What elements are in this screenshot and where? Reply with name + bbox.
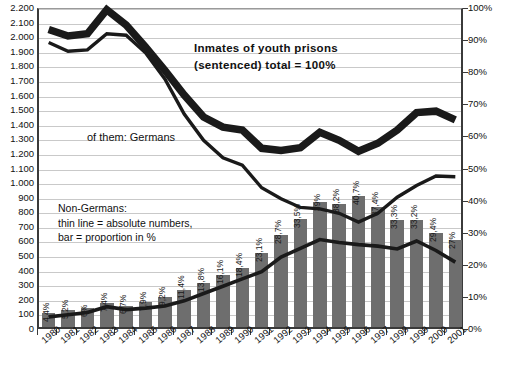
- left-axis-tick-label: 0: [1, 324, 34, 334]
- non-germans-legend-annotation: Non-Germans: thin line = absolute number…: [58, 201, 193, 245]
- bar-value-label: 39%: [312, 194, 322, 211]
- bar-value-label: 40,7%: [351, 181, 361, 205]
- right-axis-tick-label: 90%: [468, 35, 506, 45]
- left-axis-tick-label: 1.900: [1, 47, 34, 57]
- bar-value-label: 9,2%: [157, 287, 167, 306]
- left-axis-tick-label: 800: [1, 207, 34, 217]
- right-axis-tick-label: 40%: [468, 196, 506, 206]
- left-axis-tick-label: 900: [1, 193, 34, 203]
- left-axis-tick-label: 1.100: [1, 164, 34, 174]
- left-axis-tick-label: 100: [1, 309, 34, 319]
- bar-value-label: 33,2%: [409, 205, 419, 229]
- bar-value-label: 29,4%: [428, 218, 438, 242]
- bar-value-label: 5,2%: [60, 300, 70, 319]
- bar-value-label: 18,4%: [234, 253, 244, 277]
- germans-series-annotation: of them: Germans: [87, 130, 175, 144]
- bar-value-label: 6,7%: [118, 295, 128, 314]
- bar-value-label: 33,3%: [389, 205, 399, 229]
- right-axis-tick-label: 60%: [468, 131, 506, 141]
- right-axis-tick-label: 10%: [468, 292, 506, 302]
- bar-value-label: 28,7%: [273, 220, 283, 244]
- x-axis-tick: [37, 329, 38, 335]
- left-axis-tick-label: 1.600: [1, 91, 34, 101]
- right-axis-tick-label: 80%: [468, 67, 506, 77]
- right-axis-tick-label: 100%: [468, 3, 506, 13]
- right-axis-tick-label: 30%: [468, 228, 506, 238]
- left-axis-tick-label: 1.500: [1, 105, 34, 115]
- bar-value-label: 13,8%: [196, 268, 206, 292]
- line-medium-line: [49, 240, 456, 317]
- left-axis-tick-label: 300: [1, 280, 34, 290]
- left-axis-tick-label: 2.200: [1, 3, 34, 13]
- left-axis-tick-label: 700: [1, 222, 34, 232]
- left-axis-tick-label: 500: [1, 251, 34, 261]
- bar-value-label: 7,9%: [138, 291, 148, 310]
- left-axis-tick-label: 600: [1, 236, 34, 246]
- bar-value-label: 27%: [447, 232, 457, 249]
- left-axis-tick-label: 2.000: [1, 32, 34, 42]
- left-axis: 01002003004005006007008009001.0001.1001.…: [0, 0, 34, 373]
- left-axis-tick-label: 400: [1, 266, 34, 276]
- left-axis-tick-label: 1.000: [1, 178, 34, 188]
- bar-value-label: 6%: [79, 304, 89, 316]
- bar-value-label: 37,4%: [370, 192, 380, 216]
- right-axis-tick-label: 0%: [468, 324, 506, 334]
- right-axis: 0%10%20%30%40%50%60%70%80%90%100%: [468, 0, 507, 373]
- left-axis-tick-label: 1.700: [1, 76, 34, 86]
- left-axis-tick-label: 1.300: [1, 134, 34, 144]
- bar-value-label: 16,1%: [215, 260, 225, 284]
- chart-container: 01002003004005006007008009001.0001.1001.…: [0, 0, 507, 373]
- bar-value-label: 11,4%: [176, 276, 186, 299]
- bar-value-label: 4,4%: [41, 303, 51, 322]
- left-axis-tick-label: 200: [1, 295, 34, 305]
- bar-value-label: 33,5%: [292, 204, 302, 228]
- right-axis-tick-label: 70%: [468, 99, 506, 109]
- left-axis-tick-label: 1.400: [1, 120, 34, 130]
- left-axis-tick-label: 2.100: [1, 18, 34, 28]
- right-axis-tick-label: 50%: [468, 164, 506, 174]
- bar-value-label: 7,4%: [99, 293, 109, 312]
- bar-value-label: 23,1%: [254, 238, 264, 262]
- bar-value-label: 38,2%: [331, 189, 341, 213]
- chart-title-annotation: Inmates of youth prisons (sentenced) tot…: [194, 40, 338, 74]
- left-axis-tick-label: 1.800: [1, 61, 34, 71]
- left-axis-tick-label: 1.200: [1, 149, 34, 159]
- right-axis-tick-label: 20%: [468, 260, 506, 270]
